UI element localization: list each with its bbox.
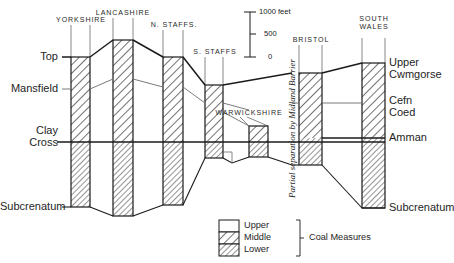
- column-lancashire: [113, 40, 133, 216]
- legend-swatches: [219, 220, 239, 256]
- column-header-south-wales: SOUTH WALES: [348, 16, 400, 32]
- legend-label-upper: Upper: [244, 220, 269, 230]
- legend-brace: [296, 220, 304, 256]
- horizon-label-cefn-coed: Cefn Coed: [389, 94, 451, 119]
- horizon-label-clay-cross: Clay Cross: [0, 124, 58, 149]
- legend-title: Coal Measures: [309, 232, 371, 242]
- scale-tick-500: 500: [264, 30, 277, 39]
- horizon-label-subcrenatum-left: Subcrenatum: [0, 200, 58, 212]
- legend-label-lower: Lower: [244, 244, 269, 254]
- column-s-staffs: [205, 85, 223, 158]
- legend-label-middle: Middle: [244, 232, 271, 242]
- midland-barrier-annotation: Partial separation by Midland Barrier: [287, 59, 297, 198]
- staffs-base-step: [223, 152, 232, 163]
- column-header-yorkshire: YORKSHIRE: [50, 17, 112, 25]
- scale-tick-0: 0: [268, 53, 272, 62]
- column-header-n-staffs: N. STAFFS.: [143, 22, 205, 30]
- column-header-warwickshire: WARWICKSHIRE: [210, 110, 288, 118]
- scale-tick-1000: 1000 feet: [259, 8, 291, 17]
- scale-bar: [244, 12, 256, 57]
- column-header-s-staffs: S. STAFFS: [188, 49, 242, 57]
- column-yorkshire: [71, 57, 90, 207]
- column-n-staffs: [163, 57, 183, 205]
- horizon-label-upper-cwmgorse: Upper Cwmgorse: [389, 56, 451, 81]
- horizon-label-top: Top: [0, 50, 58, 62]
- horizon-label-mansfield: Mansfield: [0, 82, 58, 94]
- subcrenatum-horizon-line: [62, 157, 385, 216]
- column-header-bristol: BRISTOL: [284, 37, 338, 45]
- column-header-lancashire: LANCASHIRE: [88, 10, 158, 18]
- horizon-label-subcrenatum-right: Subcrenatum: [389, 201, 453, 213]
- column-south-wales: [362, 63, 385, 208]
- column-bristol: [299, 73, 322, 165]
- horizon-label-amman: Amman: [389, 131, 451, 143]
